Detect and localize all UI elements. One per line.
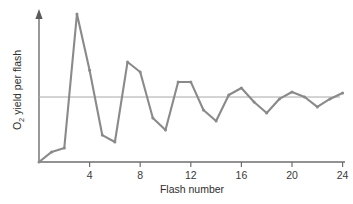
data-point-flash-1 [50, 150, 53, 153]
y-axis-title-lead: O [11, 122, 23, 130]
data-point-flash-11 [177, 80, 180, 83]
data-point-markers [38, 13, 345, 164]
x-axis-tick-label-4: 4 [87, 169, 93, 181]
data-point-flash-20 [291, 90, 294, 93]
data-point-flash-10 [164, 129, 167, 132]
y-axis-title: O2 yield per flash [11, 50, 26, 130]
data-point-flash-9 [151, 117, 154, 120]
data-point-flash-8 [139, 71, 142, 74]
data-point-flash-14 [215, 120, 218, 123]
data-point-flash-7 [126, 60, 129, 63]
data-point-flash-3 [75, 13, 78, 16]
x-axis-title: Flash number [160, 183, 225, 195]
x-axis-tick-label-20: 20 [286, 169, 298, 181]
y-axis-title-trail: yield per flash [11, 50, 23, 118]
data-point-flash-15 [227, 93, 230, 96]
data-point-flash-21 [303, 96, 306, 99]
data-point-flash-5 [101, 134, 104, 137]
data-point-flash-23 [328, 97, 331, 100]
data-series-group [38, 13, 345, 164]
data-point-flash-19 [278, 97, 281, 100]
x-axis-tick-label-16: 16 [236, 169, 248, 181]
x-axis-tick-label-12: 12 [185, 169, 197, 181]
x-axis-tick-label-24: 24 [337, 169, 349, 181]
x-axis-ticks: 4812162024 [87, 162, 349, 181]
data-point-flash-24 [341, 92, 344, 95]
chart-figure: 4812162024 Flash number O2 yield per fla… [0, 0, 353, 204]
data-point-flash-6 [113, 141, 116, 144]
data-point-flash-12 [189, 80, 192, 83]
data-point-flash-22 [316, 105, 319, 108]
data-point-flash-18 [265, 112, 268, 115]
oxygen-flash-yield-chart: 4812162024 Flash number O2 yield per fla… [0, 0, 353, 204]
data-point-flash-4 [88, 69, 91, 72]
o2-yield-line [39, 14, 343, 162]
data-point-flash-16 [240, 87, 243, 90]
x-axis-title-group: Flash number [160, 183, 225, 195]
x-axis-tick-label-8: 8 [137, 169, 143, 181]
data-point-flash-2 [63, 146, 66, 149]
data-point-flash-13 [202, 109, 205, 112]
y-axis-title-group: O2 yield per flash [11, 50, 26, 130]
data-point-flash-0 [38, 161, 41, 164]
data-point-flash-17 [253, 101, 256, 104]
y-axis-arrow-icon [35, 9, 42, 19]
